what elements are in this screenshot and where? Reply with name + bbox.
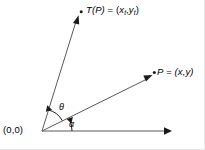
- label-angle-theta: θ: [59, 103, 64, 112]
- rotation-diagram: T(P) = (xt,yt) P = (x,y) θ α (0,0): [0, 0, 205, 150]
- label-transformed-point: T(P) = (xt,yt): [86, 5, 139, 15]
- vector-tp-line: [42, 21, 76, 132]
- label-p-coords: (x,y): [175, 66, 194, 77]
- label-tp-name: T(P): [86, 4, 105, 15]
- label-tp-x-subscript: t: [124, 9, 126, 16]
- label-point-p: P = (x,y): [157, 67, 194, 77]
- x-axis-arrowhead-icon: [164, 127, 172, 135]
- label-tp-y-subscript: t: [134, 9, 136, 16]
- vector-p-line: [42, 79, 147, 131]
- label-tp-equals: =: [105, 4, 116, 15]
- point-p-dot: [153, 71, 156, 74]
- vector-tp-ray: [42, 10, 83, 131]
- label-tp-y: y: [129, 4, 134, 15]
- point-tp-dot: [80, 10, 83, 13]
- vector-tp-arrowhead-icon: [73, 15, 79, 24]
- label-p-equals: =: [163, 66, 174, 77]
- label-angle-alpha: α: [69, 120, 74, 129]
- label-tp-close-paren: ): [136, 4, 139, 15]
- x-axis-ray: [42, 127, 172, 135]
- label-origin: (0,0): [3, 125, 23, 135]
